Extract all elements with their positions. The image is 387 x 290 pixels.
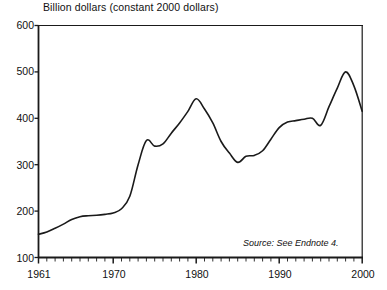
source-annotation: Source: See Endnote 4. bbox=[243, 238, 339, 248]
y-axis-tick-label: 600 bbox=[4, 19, 34, 31]
axis-frame bbox=[38, 25, 363, 258]
x-axis-tick-label: 1980 bbox=[177, 268, 217, 280]
x-axis-tick-label: 1990 bbox=[260, 268, 300, 280]
y-axis-tick-label: 300 bbox=[4, 159, 34, 171]
data-series-line bbox=[39, 72, 363, 234]
y-axis-tick-label: 500 bbox=[4, 65, 34, 77]
x-axis-tick-label: 2000 bbox=[343, 268, 383, 280]
y-axis-tick-label: 100 bbox=[4, 252, 34, 264]
y-axis-tick-label: 400 bbox=[4, 112, 34, 124]
chart-title: Billion dollars (constant 2000 dollars) bbox=[43, 1, 219, 13]
x-axis-tick-label: 1970 bbox=[94, 268, 134, 280]
y-axis-tick-label: 200 bbox=[4, 205, 34, 217]
x-axis-tick-label: 1961 bbox=[19, 268, 59, 280]
chart-container: Billion dollars (constant 2000 dollars) … bbox=[0, 0, 387, 290]
